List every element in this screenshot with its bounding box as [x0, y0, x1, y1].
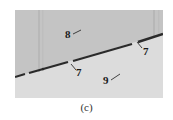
figure-caption: (c): [0, 102, 173, 113]
region-label-9: 9: [103, 75, 109, 86]
boundary-label-7-left: 7: [76, 67, 82, 78]
region-label-8: 8: [65, 29, 71, 40]
figure-panel: 8 7 7 9 (c): [0, 0, 173, 120]
micrograph-image: [15, 10, 163, 98]
boundary-label-7-right: 7: [143, 46, 149, 57]
